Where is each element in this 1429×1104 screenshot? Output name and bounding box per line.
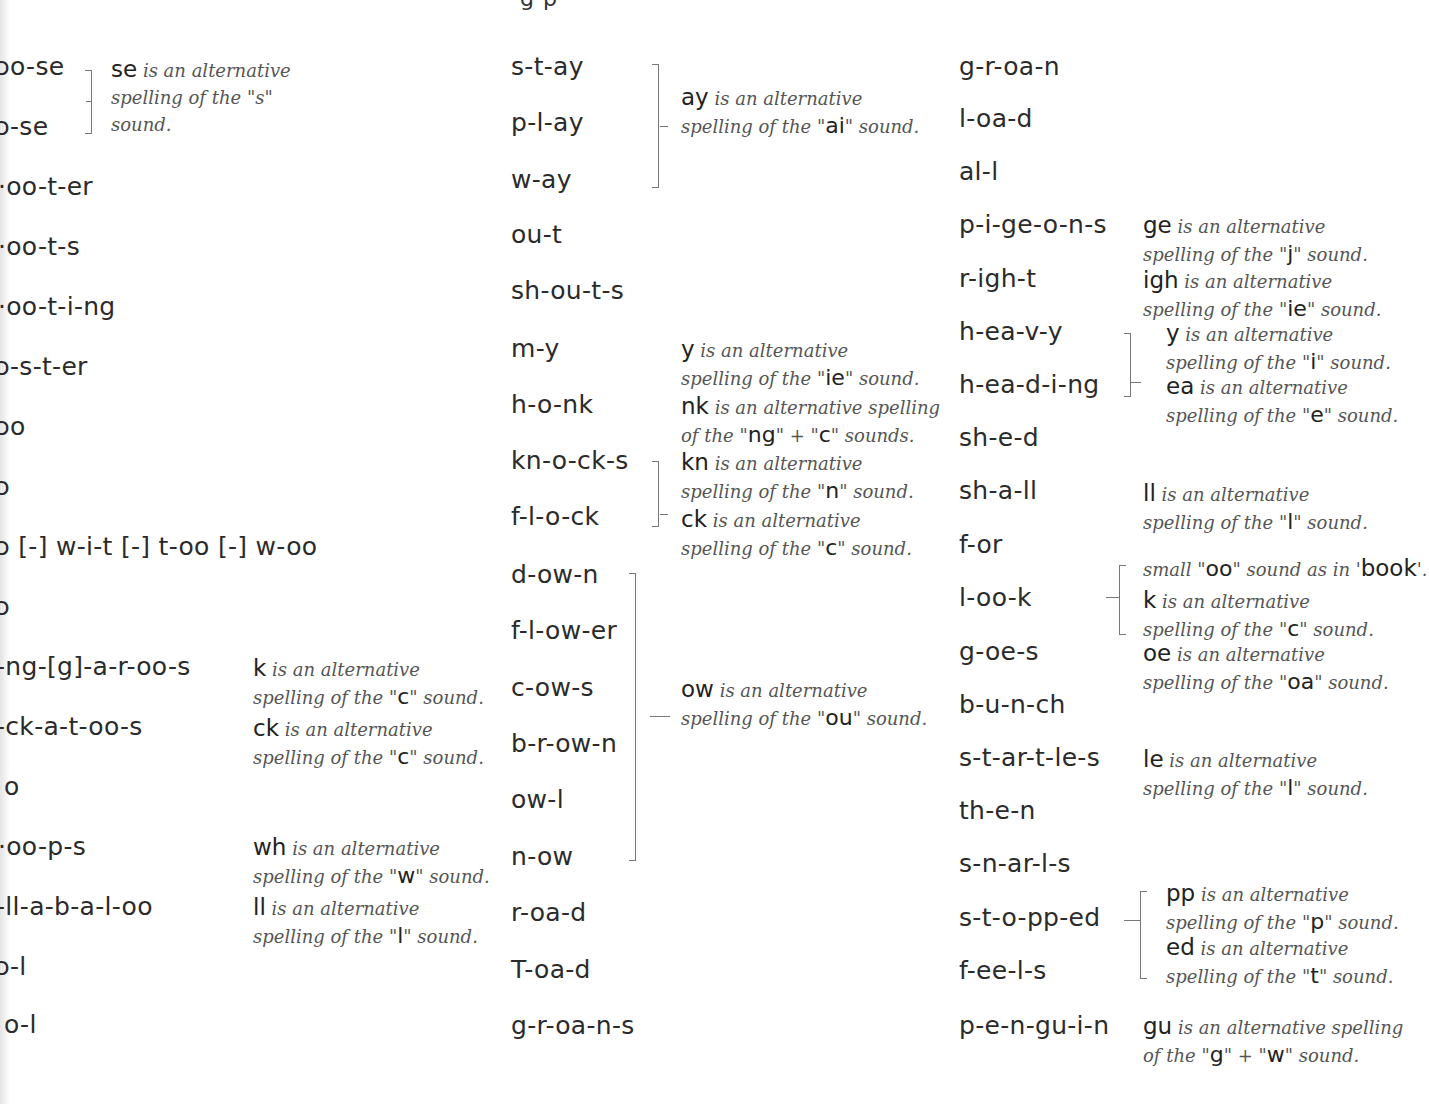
word-segmented: r-oa-d: [511, 898, 586, 928]
word-segmented: -ll-a-b-a-l-oo: [0, 892, 153, 922]
word-segmented: p-e-n-gu-i-n: [959, 1011, 1109, 1041]
bracket: [652, 64, 659, 188]
bracket-tick: [660, 514, 668, 515]
bracket: [652, 461, 659, 527]
bracket: [85, 70, 92, 134]
spelling-note: ll is an alternative spelling of the "l"…: [253, 894, 478, 950]
word-segmented: ɔo: [0, 412, 26, 442]
word-segmented: s-t-ar-t-le-s: [959, 743, 1100, 773]
word-segmented: m-y: [511, 334, 560, 364]
word-segmented: p-i-ge-o-n-s: [959, 210, 1107, 240]
word-segmented: ·oo-t-i-ng: [0, 292, 116, 322]
word-segmented: sh-a-ll: [959, 476, 1037, 506]
word-segmented: f-or: [959, 530, 1003, 560]
spelling-note: y is an alternative spelling of the "i" …: [1166, 320, 1391, 376]
bracket-tick: [1131, 382, 1141, 383]
word-segmented: ɔo-se: [0, 52, 64, 82]
word-segmented: p-l-ay: [511, 108, 584, 138]
bracket-tick: [1124, 920, 1141, 921]
spelling-note: ow is an alternative spelling of the "ou…: [681, 676, 927, 732]
spelling-note: ed is an alternative spelling of the "t"…: [1166, 934, 1393, 990]
word-segmented: f-l-ow-er: [511, 616, 617, 646]
word-segmented: ɔ [-] w-i-t [-] t-oo [-] w-oo: [0, 532, 317, 562]
word-segmented: d-ow-n: [511, 560, 599, 590]
spelling-note: pp is an alternative spelling of the "p"…: [1166, 880, 1399, 936]
word-segmented: s-t-o-pp-ed: [959, 903, 1100, 933]
word-segmented: ·oo-t-s: [0, 232, 80, 262]
spelling-note: gu is an alternative spelling of the "g"…: [1143, 1013, 1403, 1069]
word-segmented: w-ay: [511, 165, 572, 195]
spelling-note: ck is an alternative spelling of the "c"…: [681, 506, 912, 562]
word-segmented: T-oa-d: [511, 955, 591, 985]
spelling-note: wh is an alternative spelling of the "w"…: [253, 834, 490, 890]
bracket: [1119, 565, 1126, 635]
word-segmented: f-l-o-ck: [511, 502, 599, 532]
bracket: [1140, 891, 1147, 979]
word-segmented: kn-o-ck-s: [511, 446, 629, 476]
spelling-note: ge is an alternative spelling of the "j"…: [1143, 212, 1368, 268]
bracket-tick: [86, 101, 92, 102]
word-segmented: ·oo-t-er: [0, 172, 93, 202]
spelling-note: nk is an alternative spelling of the "ng…: [681, 393, 940, 449]
word-segmented: ɔ-l: [0, 952, 27, 982]
bracket-tick: [650, 716, 670, 717]
word-segmented: l-oa-d: [959, 104, 1033, 134]
spelling-note: k is an alternative spelling of the "c" …: [253, 655, 484, 711]
spelling-note: se is an alternative spelling of the "s"…: [111, 56, 291, 138]
word-segmented: ɔ: [0, 592, 10, 622]
spelling-note: ll is an alternative spelling of the "l"…: [1143, 480, 1368, 536]
bracket: [629, 573, 636, 861]
word-segmented: c-ow-s: [511, 673, 594, 703]
word-segmented: f-ee-l-s: [959, 956, 1047, 986]
word-segmented: o-l: [4, 1010, 37, 1040]
word-segmented: r-igh-t: [959, 264, 1036, 294]
word-segmented: ɔ-se: [0, 112, 48, 142]
word-segmented: th-e-n: [959, 796, 1036, 826]
word-segmented: s-n-ar-l-s: [959, 849, 1071, 879]
word-segmented: l-oo-k: [959, 583, 1032, 613]
word-segmented: b-u-n-ch: [959, 690, 1066, 720]
spelling-note: small "oo" sound as in 'book'.: [1143, 555, 1427, 583]
spelling-note: igh is an alternative spelling of the "i…: [1143, 267, 1381, 323]
word-segmented: h-ea-v-y: [959, 317, 1063, 347]
word-segmented: ɔ-s-t-er: [0, 352, 88, 382]
word-segmented: -ng-[g]-a-r-oo-s: [0, 652, 191, 682]
word-segmented: g-r-oa-n-s: [511, 1011, 635, 1041]
word-segmented: -ck-a-t-oo-s: [0, 712, 143, 742]
spelling-note: y is an alternative spelling of the "ie"…: [681, 336, 919, 392]
spelling-note: ck is an alternative spelling of the "c"…: [253, 715, 484, 771]
word-segmented: h-ea-d-i-ng: [959, 370, 1099, 400]
word-segmented: h-o-nk: [511, 390, 593, 420]
spelling-note: ea is an alternative spelling of the "e"…: [1166, 373, 1398, 429]
spelling-note: ay is an alternative spelling of the "ai…: [681, 84, 919, 140]
cropped-page-title: g p: [520, 0, 558, 11]
word-segmented: g-r-oa-n: [959, 52, 1060, 82]
spelling-note: oe is an alternative spelling of the "oa…: [1143, 640, 1389, 696]
spelling-note: kn is an alternative spelling of the "n"…: [681, 449, 914, 505]
spelling-note: k is an alternative spelling of the "c" …: [1143, 587, 1374, 643]
word-segmented: ou-t: [511, 220, 562, 250]
bracket: [1124, 333, 1131, 397]
word-segmented: g-oe-s: [959, 637, 1039, 667]
spelling-note: le is an alternative spelling of the "l"…: [1143, 746, 1368, 802]
word-segmented: ·oo-p-s: [0, 832, 86, 862]
word-segmented: s-t-ay: [511, 52, 584, 82]
word-segmented: al-l: [959, 157, 998, 187]
bracket-tick: [660, 126, 668, 127]
word-segmented: sh-ou-t-s: [511, 276, 624, 306]
word-segmented: n-ow: [511, 842, 573, 872]
word-segmented: ɔ: [0, 472, 10, 502]
word-segmented: ow-l: [511, 785, 564, 815]
word-segmented: o: [4, 772, 20, 802]
word-segmented: sh-e-d: [959, 423, 1039, 453]
bracket-tick: [1106, 597, 1120, 598]
word-segmented: b-r-ow-n: [511, 729, 617, 759]
